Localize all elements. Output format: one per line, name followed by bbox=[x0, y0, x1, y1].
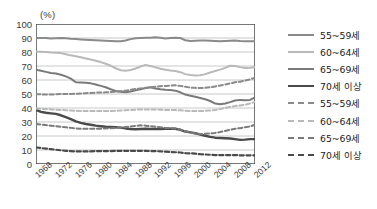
legend-label: 65~69세 bbox=[320, 131, 360, 145]
chart-figure: (%) 0102030405060708090100 1968197219761… bbox=[0, 0, 377, 209]
legend-label: 60~64세 bbox=[320, 45, 360, 59]
legend-label: 70세 이상 bbox=[320, 148, 362, 162]
legend-label: 65~69세 bbox=[320, 62, 360, 76]
legend-item[interactable]: 65~69세 bbox=[288, 129, 377, 146]
y-tick-label: 70 bbox=[21, 61, 32, 72]
x-tick-label: 2012 bbox=[252, 160, 273, 180]
plot-area bbox=[36, 24, 255, 164]
chart-svg bbox=[36, 24, 255, 164]
y-tick-label: 100 bbox=[16, 19, 32, 30]
y-tick-label: 80 bbox=[21, 47, 32, 58]
legend-label: 60~64세 bbox=[320, 114, 360, 128]
y-tick-label: 10 bbox=[21, 145, 32, 156]
legend-label: 70세 이상 bbox=[320, 79, 362, 93]
legend-item[interactable]: 60~64세 bbox=[288, 43, 377, 60]
legend-label: 55~59세 bbox=[320, 28, 360, 42]
y-axis-unit-label: (%) bbox=[40, 9, 55, 20]
legend-item[interactable]: 60~64세 bbox=[288, 112, 377, 129]
y-tick-label: 30 bbox=[21, 117, 32, 128]
y-tick-label: 40 bbox=[21, 103, 32, 114]
legend-item[interactable]: 70세 이상 bbox=[288, 146, 377, 163]
series-line-solid-60-64세 bbox=[36, 51, 255, 75]
legend-item[interactable]: 65~69세 bbox=[288, 60, 377, 77]
y-tick-label: 0 bbox=[27, 159, 32, 170]
y-tick-label: 90 bbox=[21, 33, 32, 44]
legend-label: 55~59세 bbox=[320, 96, 360, 110]
chart-legend: 55~59세60~64세65~69세70세 이상55~59세60~64세65~6… bbox=[288, 26, 377, 164]
legend-item[interactable]: 55~59세 bbox=[288, 26, 377, 43]
y-axis-tick-labels: 0102030405060708090100 bbox=[0, 18, 34, 166]
legend-item[interactable]: 55~59세 bbox=[288, 95, 377, 112]
legend-item[interactable]: 70세 이상 bbox=[288, 78, 377, 95]
y-tick-label: 60 bbox=[21, 75, 32, 86]
y-tick-label: 50 bbox=[21, 89, 32, 100]
series-line-dashed-55-59세 bbox=[36, 78, 255, 95]
y-tick-label: 20 bbox=[21, 131, 32, 142]
series-line-dashed-70세-이상 bbox=[36, 147, 255, 155]
x-axis-tick-labels: 1968197219761980198419881992199620002004… bbox=[36, 166, 266, 208]
